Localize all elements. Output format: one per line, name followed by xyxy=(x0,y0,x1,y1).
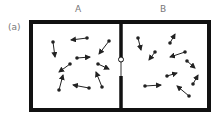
molecule-dot xyxy=(153,50,157,54)
molecule-dot xyxy=(187,94,191,98)
velocity-arrow-icon xyxy=(73,85,89,88)
molecule-chamber-b xyxy=(168,34,175,45)
molecule-dot xyxy=(136,36,140,40)
molecule-dot xyxy=(185,59,189,63)
molecule-dot xyxy=(107,39,111,43)
molecule-chamber-a xyxy=(75,56,90,60)
molecule-chamber-b xyxy=(185,59,195,68)
velocity-arrow-icon xyxy=(59,75,63,90)
velocity-arrow-icon xyxy=(98,64,109,69)
molecule-chamber-a xyxy=(57,75,63,92)
molecule-chamber-b xyxy=(170,50,187,57)
molecule-chamber-a xyxy=(51,40,55,57)
molecule-chamber-a xyxy=(96,62,109,69)
molecule-dot xyxy=(75,56,79,60)
valve-icon xyxy=(119,57,124,62)
velocity-arrow-icon xyxy=(177,86,189,96)
molecule-dot xyxy=(183,50,187,54)
molecule-chamber-a xyxy=(99,39,111,54)
molecule-chamber-a xyxy=(71,36,89,40)
velocity-arrow-icon xyxy=(96,72,102,87)
molecule-dot xyxy=(100,85,104,89)
molecule-dot xyxy=(51,40,55,44)
velocity-arrow-icon xyxy=(99,41,109,54)
molecule-chamber-b xyxy=(136,36,141,50)
molecule-dot xyxy=(85,36,89,40)
molecule-chamber-b xyxy=(149,50,157,60)
molecule-chamber-a xyxy=(59,62,72,72)
molecule-chamber-a xyxy=(73,85,91,90)
molecule-chamber-b xyxy=(191,75,198,86)
molecule-chamber-b xyxy=(143,84,161,88)
velocity-arrow-icon xyxy=(77,57,90,58)
molecule-dot xyxy=(87,86,91,90)
molecule-dot xyxy=(68,62,72,66)
two-chamber-gas-diagram xyxy=(0,0,220,121)
molecule-dot xyxy=(168,41,172,45)
molecule-chamber-b xyxy=(177,86,191,98)
velocity-arrow-icon xyxy=(138,38,141,50)
molecule-dot xyxy=(57,88,61,92)
molecule-dot xyxy=(165,74,169,78)
molecule-chamber-a xyxy=(96,72,104,89)
velocity-arrow-icon xyxy=(71,38,87,40)
velocity-arrow-icon xyxy=(53,42,55,57)
molecule-dot xyxy=(96,62,100,66)
molecule-dot xyxy=(191,82,195,86)
velocity-arrow-icon xyxy=(59,64,70,72)
molecules-group xyxy=(51,34,198,98)
molecule-dot xyxy=(143,84,147,88)
velocity-arrow-icon xyxy=(145,85,161,86)
molecule-chamber-b xyxy=(165,73,177,78)
velocity-arrow-icon xyxy=(170,52,185,57)
